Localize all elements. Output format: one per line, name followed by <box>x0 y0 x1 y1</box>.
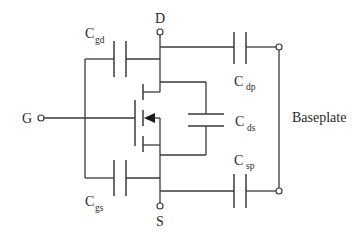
drain-terminal <box>157 29 163 35</box>
source-terminal <box>157 203 163 209</box>
cds-label: C <box>235 114 244 129</box>
cgs-label: C <box>85 194 94 209</box>
cgd-sub-label: gd <box>95 35 105 45</box>
cds-sub-label: ds <box>247 123 256 133</box>
gate-label: G <box>22 111 32 126</box>
csp-sub-label: sp <box>246 161 255 171</box>
cdp-label: C <box>234 74 243 89</box>
circuit-diagram: D C dp Baseplate C gd G C ds C <box>0 0 352 237</box>
baseplate-terminal-top <box>276 44 282 50</box>
baseplate-label: Baseplate <box>292 110 346 125</box>
cdp-sub-label: dp <box>246 82 256 92</box>
csp-label: C <box>234 153 243 168</box>
cgs-sub-label: gs <box>95 203 104 213</box>
body-arrow-icon <box>144 113 155 123</box>
baseplate-terminal-bottom <box>276 188 282 194</box>
cgd-label: C <box>85 26 94 41</box>
gate-terminal <box>38 115 44 121</box>
source-label: S <box>156 214 164 229</box>
drain-label: D <box>155 11 165 26</box>
